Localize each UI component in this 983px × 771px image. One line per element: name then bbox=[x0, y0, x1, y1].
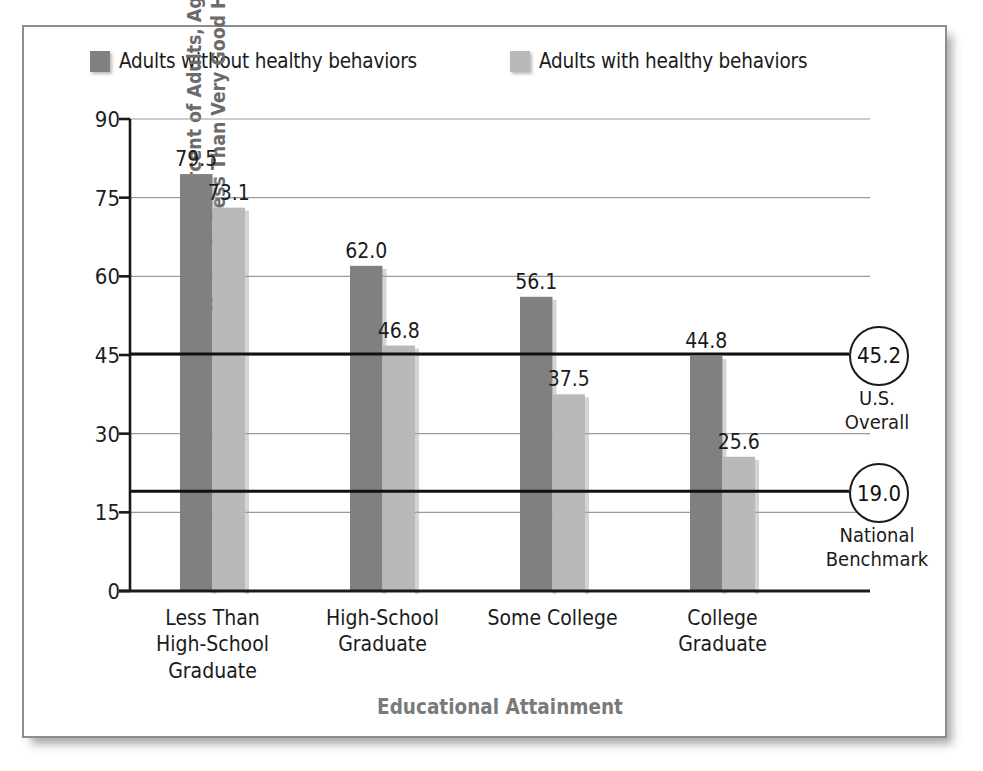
x-category-label: Less Than High-School Graduate bbox=[121, 605, 305, 684]
chart-bars-layer bbox=[180, 174, 759, 594]
bar-value-label: 73.1 bbox=[199, 181, 260, 205]
x-axis-title: Educational Attainment bbox=[130, 695, 870, 719]
bar-value-label: 56.1 bbox=[506, 270, 567, 294]
bar-value-label: 46.8 bbox=[369, 319, 430, 343]
bar-shadow bbox=[755, 460, 759, 594]
reference-badge-national-benchmark: 19.0 bbox=[849, 463, 909, 523]
reference-caption-national-benchmark: National Benchmark bbox=[812, 523, 942, 571]
bar-value-label: 79.5 bbox=[166, 147, 227, 171]
x-category-label: Some College bbox=[461, 605, 645, 631]
bar[interactable] bbox=[723, 457, 756, 591]
x-category-label: College Graduate bbox=[631, 605, 815, 658]
reference-badge-us-overall: 45.2 bbox=[849, 326, 909, 386]
bar[interactable] bbox=[520, 297, 553, 591]
bar[interactable] bbox=[180, 174, 213, 591]
x-category-label: High-School Graduate bbox=[291, 605, 475, 658]
bar[interactable] bbox=[383, 346, 416, 591]
bar-value-label: 62.0 bbox=[336, 239, 397, 263]
bar-shadow bbox=[415, 349, 419, 594]
reference-caption-us-overall: U.S. Overall bbox=[812, 386, 942, 434]
bar-value-label: 37.5 bbox=[539, 367, 600, 391]
chart-axis-ticks bbox=[119, 119, 130, 591]
bar[interactable] bbox=[350, 266, 383, 591]
bar-shadow bbox=[585, 397, 589, 594]
bar-shadow bbox=[245, 211, 249, 594]
bar-value-label: 25.6 bbox=[709, 430, 770, 454]
bar[interactable] bbox=[213, 208, 246, 591]
bar-value-label: 44.8 bbox=[676, 329, 737, 353]
bar[interactable] bbox=[690, 356, 723, 591]
chart-figure-panel: Adults without healthy behaviors Adults … bbox=[22, 25, 947, 738]
